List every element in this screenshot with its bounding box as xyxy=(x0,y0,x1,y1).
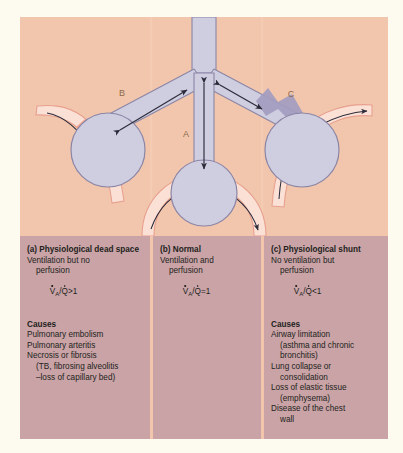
panel-c-cause: (asthma and chronic xyxy=(271,341,381,352)
panel-c-cause: wall xyxy=(271,415,381,426)
panel-c-ratio-num: V xyxy=(294,287,299,298)
panel-c-cause: Airway limitation xyxy=(271,330,381,341)
lung-unit-illustration: B A C xyxy=(20,17,388,236)
panel-a-ratio-den: Q xyxy=(62,287,68,298)
figure-plate: B A C (a) Physiological dead space Venti… xyxy=(20,17,388,439)
panel-c-cause: Disease of the chest xyxy=(271,404,381,415)
figure-root: B A C (a) Physiological dead space Venti… xyxy=(0,0,403,453)
panel-c-cause: consolidation xyxy=(271,373,381,384)
panel-a-ratio-op: >1 xyxy=(68,287,77,296)
panel-b: (b) Normal Ventilation and perfusion VA/… xyxy=(153,236,261,439)
alveolus-centre xyxy=(171,160,237,226)
panel-b-heading: (b) Normal xyxy=(160,245,254,256)
caption-band: (a) Physiological dead space Ventilation… xyxy=(20,236,388,439)
panel-a-desc-line-1: Ventilation but no xyxy=(27,256,143,267)
panel-c-ratio-op: <1 xyxy=(312,287,321,296)
panel-a-cause: (TB, fibrosing alveolitis xyxy=(27,362,143,373)
panel-c: (c) Physiological shunt No ventilation b… xyxy=(264,236,388,439)
panel-a-ratio-num: V xyxy=(50,287,55,298)
panel-a-cause: Pulmonary embolism xyxy=(27,330,143,341)
panel-a: (a) Physiological dead space Ventilation… xyxy=(20,236,150,439)
panel-c-desc-line-2: perfusion xyxy=(271,266,381,277)
panel-a-cause: Necrosis or fibrosis xyxy=(27,351,143,362)
label-c: C xyxy=(288,89,295,99)
panel-a-spacer xyxy=(27,310,143,320)
panel-b-desc-line-2: perfusion xyxy=(160,266,254,277)
panel-c-cause: Loss of elastic tissue xyxy=(271,383,381,394)
panel-c-cause: Lung collapse or xyxy=(271,362,381,373)
panel-a-heading: (a) Physiological dead space xyxy=(27,245,143,256)
panel-b-ratio-op: =1 xyxy=(201,287,210,296)
panel-b-ratio-den: Q xyxy=(195,287,201,298)
label-a: A xyxy=(183,129,189,139)
panel-c-ratio-sub: A xyxy=(299,291,303,297)
panel-a-cause: –loss of capillary bed) xyxy=(27,373,143,384)
panel-c-ratio-den: Q xyxy=(306,287,312,298)
panel-c-causes-heading: Causes xyxy=(271,320,381,331)
panel-b-ratio-sub: A xyxy=(188,291,192,297)
panel-a-cause: Pulmonary arteritis xyxy=(27,341,143,352)
panel-c-desc-line-1: No ventilation but xyxy=(271,256,381,267)
alveolus-left xyxy=(71,113,145,187)
panel-b-desc-line-1: Ventilation and xyxy=(160,256,254,267)
panel-c-cause: (emphysema) xyxy=(271,394,381,405)
panel-a-causes-heading: Causes xyxy=(27,320,143,331)
label-b: B xyxy=(119,88,125,98)
panel-a-ratio: VA/Q>1 xyxy=(27,277,143,310)
panel-c-heading: (c) Physiological shunt xyxy=(271,245,381,256)
panel-c-cause: bronchitis) xyxy=(271,351,381,362)
panel-b-ratio-num: V xyxy=(183,287,188,298)
panel-b-ratio: VA/Q=1 xyxy=(160,277,254,310)
panel-a-ratio-sub: A xyxy=(55,291,59,297)
panel-c-ratio: VA/Q<1 xyxy=(271,277,381,310)
alveolus-right xyxy=(265,113,339,187)
panel-c-spacer xyxy=(271,310,381,320)
panel-a-desc-line-2: perfusion xyxy=(27,266,143,277)
